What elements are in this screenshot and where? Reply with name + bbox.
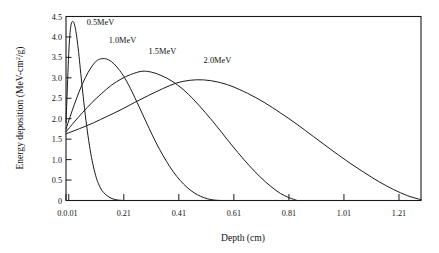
y-axis-title: Energy deposition (MeV-cm2/g) (14, 46, 26, 169)
y-tick-label: 2.0 (52, 115, 62, 124)
y-axis-ticks: 00.51.01.52.02.53.03.54.04.5 (52, 13, 72, 206)
x-tick-label: 1.01 (337, 209, 351, 218)
y-tick-label: 0 (58, 197, 62, 206)
series-annotations: 0.5MeV1.0MeV1.5MeV2.0MeV (87, 18, 232, 65)
y-axis-title-after: /g) (14, 46, 26, 57)
x-tick-label: 0.21 (117, 209, 131, 218)
curve-2_0MeV (66, 80, 421, 200)
curve-0_5MeV (66, 21, 124, 200)
series-label-2_0MeV: 2.0MeV (204, 56, 232, 65)
y-tick-label: 2.5 (52, 94, 62, 103)
y-axis-title-group: Energy deposition (MeV-cm2/g) (14, 46, 26, 169)
y-tick-label: 4.5 (52, 13, 62, 22)
series-label-1_0MeV: 1.0MeV (109, 36, 137, 45)
x-tick-label: 0.61 (227, 209, 241, 218)
x-tick-label: 0.41 (172, 209, 186, 218)
figure-container: 00.51.01.52.02.53.03.54.04.5 0.0.010.210… (0, 0, 439, 253)
energy-deposition-chart: 00.51.01.52.02.53.03.54.04.5 0.0.010.210… (0, 0, 439, 253)
y-tick-label: 4.0 (52, 33, 62, 42)
y-tick-label: 1.0 (52, 156, 62, 165)
x-tick-label: 0.81 (282, 209, 296, 218)
x-tick-label: 1.21 (392, 209, 406, 218)
curve-1_5MeV (66, 71, 297, 200)
series-label-0_5MeV: 0.5MeV (87, 18, 115, 27)
y-tick-label: 1.5 (52, 135, 62, 144)
y-axis-title-before: Energy deposition (MeV-cm (14, 60, 26, 170)
series-label-1_5MeV: 1.5MeV (149, 47, 177, 56)
x-axis-title: Depth (cm) (221, 232, 265, 244)
x-tick-label: 0.0.01 (57, 209, 77, 218)
y-tick-label: 3.5 (52, 53, 62, 62)
y-tick-label: 0.5 (52, 176, 62, 185)
data-curves (66, 21, 421, 200)
y-tick-label: 3.0 (52, 74, 62, 83)
